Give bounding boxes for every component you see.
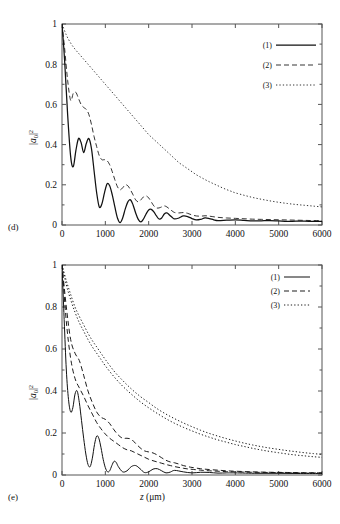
legend-label: (1): [263, 41, 273, 50]
y-tick-label: 0.4: [45, 140, 57, 150]
x-axis-label-e: z (μm): [140, 492, 165, 502]
x-tick-label: 3000: [183, 479, 202, 489]
x-tick-label: 3000: [183, 229, 202, 239]
legend-label: (1): [271, 273, 281, 282]
curve-2: [62, 24, 322, 221]
y-tick-label: 0.8: [45, 60, 57, 70]
y-tick-label: 0.6: [45, 100, 57, 110]
y-tick-label: 0.6: [45, 344, 57, 354]
y-tick-label: 0.2: [45, 428, 57, 438]
curve-2: [62, 265, 322, 473]
y-tick-label: 0: [52, 470, 57, 480]
plot-area-d: 010002000300040005000600000.20.40.60.81(…: [0, 0, 340, 262]
curve-2b: [62, 265, 322, 473]
panel-d: 010002000300040005000600000.20.40.60.81(…: [0, 0, 340, 262]
curve-1: [62, 24, 322, 223]
y-tick-label: 0.8: [45, 302, 57, 312]
x-tick-label: 5000: [269, 479, 288, 489]
x-tick-label: 4000: [226, 229, 245, 239]
y-tick-label: 0.4: [45, 386, 57, 396]
x-tick-label: 2000: [139, 229, 158, 239]
x-tick-label: 1000: [96, 479, 115, 489]
y-axis-label-e: |a0|2: [27, 385, 39, 400]
x-tick-label: 0: [60, 229, 65, 239]
y-tick-label: 0.2: [45, 180, 57, 190]
panel-e: 010002000300040005000600000.20.40.60.81(…: [0, 255, 340, 524]
x-tick-label: 1000: [96, 229, 115, 239]
plot-area-e: 010002000300040005000600000.20.40.60.81(…: [0, 255, 340, 524]
x-tick-label: 5000: [269, 229, 288, 239]
curve-1: [62, 265, 322, 474]
x-tick-label: 2000: [139, 479, 158, 489]
panel-label-e: (e): [8, 492, 18, 502]
y-axis-label-d: |a0|2: [27, 130, 39, 145]
curve-3: [62, 265, 322, 454]
x-tick-label: 0: [60, 479, 65, 489]
x-tick-label: 6000: [313, 479, 332, 489]
legend-label: (2): [263, 61, 273, 70]
legend-label: (2): [271, 287, 281, 296]
x-tick-label: 4000: [226, 479, 245, 489]
curve-3: [62, 24, 322, 207]
y-tick-label: 1: [52, 19, 57, 29]
y-tick-label: 0: [52, 220, 57, 230]
legend-label: (3): [263, 81, 273, 90]
y-tick-label: 1: [52, 260, 57, 270]
figure-container: 010002000300040005000600000.20.40.60.81(…: [0, 0, 340, 524]
panel-label-d: (d): [8, 222, 19, 232]
x-tick-label: 6000: [313, 229, 332, 239]
legend-label: (3): [271, 301, 281, 310]
